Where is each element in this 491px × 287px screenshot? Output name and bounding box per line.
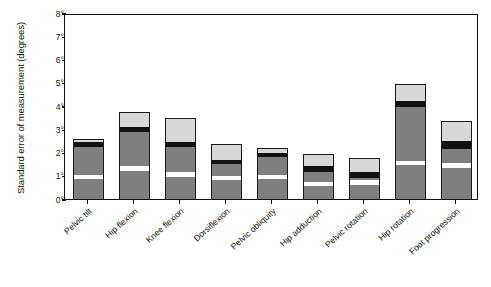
bar-segment-segment-3-dark xyxy=(257,157,288,174)
bar-segment-segment-1-dark xyxy=(165,177,196,199)
bar-segment-segment-3-dark xyxy=(303,172,334,181)
bar-segment-segment-1-dark xyxy=(303,186,334,199)
y-tick-label: 7° xyxy=(42,33,64,42)
bar-segment-segment-1-dark xyxy=(211,180,242,199)
bar-segment-segment-5-light xyxy=(119,112,150,127)
bar-segment-segment-5-light xyxy=(441,121,472,141)
bar-segment-segment-1-dark xyxy=(257,179,288,199)
bar-segment-segment-1-dark xyxy=(441,168,472,199)
y-tick-label: 3° xyxy=(42,126,64,135)
y-tick-label: 5° xyxy=(42,79,64,88)
x-tick-label: Pelvic rotation xyxy=(289,206,370,280)
bar-pelvic-obliquity xyxy=(257,148,288,199)
y-tick-label: 8° xyxy=(42,10,64,19)
x-tick-label: Hip adduction xyxy=(243,206,324,280)
x-tick-label: Dorsiflexion xyxy=(151,206,232,280)
bar-knee-flexion xyxy=(165,118,196,199)
bar-hip-adduction xyxy=(303,154,334,199)
y-axis-title: Standard error of measurement (degrees) xyxy=(14,8,28,208)
x-tick-mark xyxy=(133,200,134,204)
bar-segment-segment-3-dark xyxy=(211,164,242,176)
bar-segment-segment-5-light xyxy=(165,118,196,142)
bar-segment-segment-1-dark xyxy=(349,185,380,199)
y-tick-label: 4° xyxy=(42,103,64,112)
x-tick-mark xyxy=(409,200,410,204)
bar-pelvic-tilt xyxy=(73,139,104,199)
bar-segment-segment-5-light xyxy=(303,154,334,167)
bar-segment-segment-1-dark xyxy=(119,171,150,199)
plot-area xyxy=(64,14,478,200)
x-tick-label: Knee flexion xyxy=(105,206,186,280)
y-tick-label: 1° xyxy=(42,172,64,181)
x-tick-mark xyxy=(179,200,180,204)
bar-segment-segment-5-light xyxy=(211,144,242,159)
bar-segment-segment-1-dark xyxy=(73,179,104,199)
bar-segment-segment-3-dark xyxy=(119,132,150,167)
bar-segment-segment-1-dark xyxy=(395,165,426,199)
x-tick-mark xyxy=(363,200,364,204)
bar-segment-segment-3-dark xyxy=(165,147,196,173)
bar-foot-progression xyxy=(441,121,472,199)
y-tick-label: 0° xyxy=(42,196,64,205)
x-tick-mark xyxy=(225,200,226,204)
bar-pelvic-rotation xyxy=(349,158,380,199)
x-tick-mark xyxy=(317,200,318,204)
bar-segment-segment-5-light xyxy=(349,158,380,172)
x-tick-mark xyxy=(271,200,272,204)
bar-segment-segment-4-black xyxy=(441,141,472,149)
x-tick-label: Foot progression xyxy=(381,206,462,280)
x-tick-label: Hip rotation xyxy=(335,206,416,280)
bar-hip-flexion xyxy=(119,112,150,199)
x-tick-mark xyxy=(87,200,88,204)
y-tick-label: 6° xyxy=(42,56,64,65)
bar-dorsiflexion xyxy=(211,144,242,199)
chart-figure: Standard error of measurement (degrees) … xyxy=(0,0,491,287)
bar-segment-segment-3-dark xyxy=(441,149,472,163)
y-tick-label: 2° xyxy=(42,149,64,158)
bar-segment-segment-3-dark xyxy=(73,147,104,175)
x-tick-label: Pelvic obliquity xyxy=(197,206,278,280)
x-tick-mark xyxy=(455,200,456,204)
bar-segment-segment-5-light xyxy=(395,84,426,101)
x-tick-label: Hip flexion xyxy=(59,206,140,280)
bar-hip-rotation xyxy=(395,84,426,199)
bar-segment-segment-3-dark xyxy=(395,107,426,160)
